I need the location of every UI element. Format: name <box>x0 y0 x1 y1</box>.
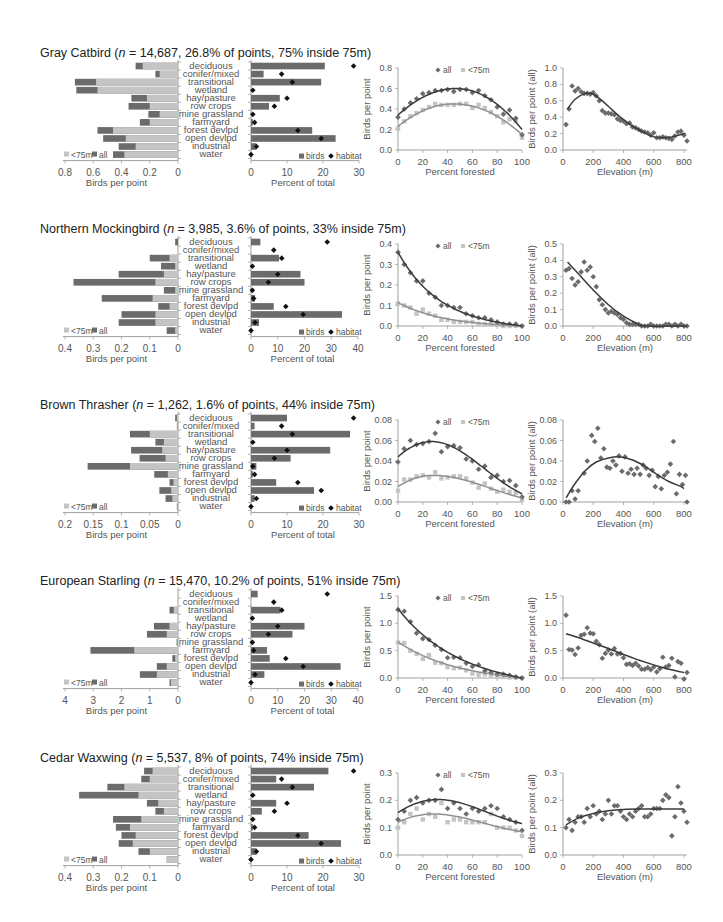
left-x-tick: 0 <box>175 872 181 883</box>
y-tick: 0.8 <box>544 79 557 89</box>
habitat-marker <box>248 504 254 510</box>
y-tick: 0.1 <box>379 301 392 311</box>
habitat-marker <box>248 152 254 158</box>
y-tick: 0.4 <box>544 112 557 122</box>
bar-lt75 <box>160 111 178 118</box>
point-all <box>634 465 640 471</box>
x-tick: 800 <box>676 156 692 167</box>
trend-all <box>568 93 686 138</box>
y-axis-label: Birds per point (all) <box>526 69 537 149</box>
point-all <box>672 674 678 680</box>
y-tick: 0.1 <box>379 823 392 833</box>
x-tick: 0 <box>560 508 565 519</box>
point-all <box>609 651 615 657</box>
habitat-marker <box>250 615 256 621</box>
left-x-tick: 0.8 <box>58 167 72 178</box>
bar-lt75 <box>166 455 178 462</box>
point-all <box>631 472 637 478</box>
point-lt75 <box>421 657 425 661</box>
bar-birds <box>251 71 264 78</box>
bar-lt75 <box>150 431 178 438</box>
bar-lt75 <box>175 263 178 270</box>
point-all <box>445 806 451 812</box>
y-axis-label: Birds per point <box>361 606 372 668</box>
category-label: water <box>198 324 222 335</box>
point-all <box>513 483 519 489</box>
bar-lt75 <box>171 679 178 686</box>
point-all <box>660 654 666 660</box>
x-tick: 0 <box>560 332 565 343</box>
panel-cedar-waxwing: Cedar Waxwing (n = 5,537, 8% of points, … <box>0 751 723 921</box>
point-all <box>628 466 634 472</box>
left-x-label: Birds per point <box>86 529 148 540</box>
bar-birds <box>251 800 276 807</box>
bar-lt75 <box>167 663 178 670</box>
y-tick: 0.06 <box>539 436 557 446</box>
bar-lt75 <box>177 415 178 422</box>
x-tick: 0 <box>395 508 400 519</box>
point-all <box>637 472 643 478</box>
bar-lt75 <box>136 143 178 150</box>
point-all <box>677 472 683 478</box>
point-all <box>584 625 590 631</box>
point-lt75 <box>414 312 418 316</box>
y-tick: 0.6 <box>544 96 557 106</box>
bar-birds <box>251 776 276 783</box>
bar-lt75 <box>170 303 178 310</box>
bar-birds <box>251 808 262 815</box>
legend-birds: birds <box>306 856 324 866</box>
x-axis-label: Percent forested <box>425 518 495 529</box>
bar-lt75 <box>113 127 178 134</box>
x-tick: 0 <box>560 861 565 872</box>
bar-birds <box>251 63 325 70</box>
bar-birds <box>251 447 330 454</box>
point-lt75 <box>396 126 400 130</box>
point-all <box>581 819 587 825</box>
y-axis-label: Birds per point (all) <box>526 245 537 325</box>
habitat-marker <box>284 95 290 101</box>
point-all <box>463 811 469 817</box>
bar-birds <box>251 655 270 662</box>
legend-birds: birds <box>306 327 324 337</box>
point-all <box>581 259 587 265</box>
habitat-marker <box>324 239 330 245</box>
legend-lt75: <75m <box>71 326 93 336</box>
point-all <box>600 817 606 823</box>
point-all <box>395 459 401 465</box>
legend-habitat-marker <box>328 329 334 335</box>
x-tick: 0 <box>395 861 400 872</box>
x-axis-label: Elevation (m) <box>597 518 653 529</box>
habitat-marker <box>295 480 301 486</box>
left-x-tick: 0 <box>175 695 181 706</box>
point-lt75 <box>464 820 468 824</box>
bar-lt75 <box>164 271 178 278</box>
left-x-label: Birds per point <box>86 353 148 364</box>
bar-lt75 <box>147 95 178 102</box>
habitat-marker <box>279 423 285 429</box>
y-tick: 1.0 <box>379 618 392 628</box>
habitat-marker <box>279 255 285 261</box>
y-axis-label: Birds per point (all) <box>526 421 537 501</box>
y-tick: 0.2 <box>379 125 392 135</box>
point-all <box>684 670 690 676</box>
point-lt75 <box>396 489 400 493</box>
x-tick: 0 <box>395 332 400 343</box>
habitat-marker <box>250 263 256 269</box>
point-lt75 <box>439 801 443 805</box>
bar-birds <box>251 487 314 494</box>
bar-lt75 <box>155 319 178 326</box>
point-all <box>563 612 569 618</box>
y-tick: 0.2 <box>544 795 557 805</box>
bar-lt75 <box>173 479 178 486</box>
point-all <box>395 249 401 255</box>
x-tick: 0 <box>560 684 565 695</box>
y-tick: 0.3 <box>379 768 392 778</box>
point-all <box>488 803 494 809</box>
habitat-marker <box>248 680 254 686</box>
point-all <box>572 496 578 502</box>
legend-lt75: <75m <box>71 678 93 688</box>
point-all <box>575 645 581 651</box>
point-all <box>593 284 599 290</box>
x-axis-label: Percent forested <box>425 342 495 353</box>
point-all <box>569 276 575 282</box>
